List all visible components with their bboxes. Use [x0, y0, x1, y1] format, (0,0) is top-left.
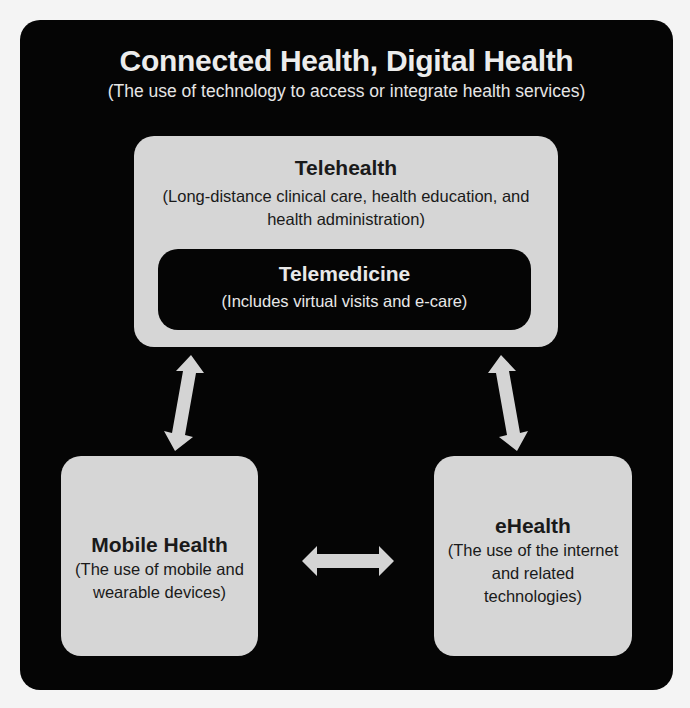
- double-arrow-icon-telehealth-mobile: [158, 353, 208, 453]
- mobile-health-node: Mobile Health (The use of mobile and wea…: [61, 456, 258, 656]
- diagram-subtitle: (The use of technology to access or inte…: [20, 80, 673, 102]
- ehealth-node: eHealth (The use of the internet and rel…: [434, 456, 632, 656]
- mobile-health-label: Mobile Health: [61, 532, 258, 558]
- telemedicine-node: Telemedicine (Includes virtual visits an…: [158, 249, 531, 330]
- ehealth-description: (The use of the internet and related tec…: [434, 539, 632, 608]
- double-arrow-icon-telehealth-ehealth: [484, 353, 534, 453]
- mobile-health-description: (The use of mobile and wearable devices): [61, 558, 258, 604]
- telehealth-label: Telehealth: [134, 155, 558, 181]
- diagram-frame: Connected Health, Digital Health (The us…: [20, 20, 673, 690]
- telehealth-node: Telehealth (Long-distance clinical care,…: [134, 136, 558, 347]
- double-arrow-icon-mobile-ehealth: [301, 544, 395, 578]
- telehealth-description: (Long-distance clinical care, health edu…: [134, 185, 558, 231]
- diagram-title: Connected Health, Digital Health: [20, 43, 673, 79]
- telemedicine-label: Telemedicine: [158, 261, 531, 287]
- telemedicine-description: (Includes virtual visits and e-care): [158, 290, 531, 313]
- ehealth-label: eHealth: [434, 513, 632, 539]
